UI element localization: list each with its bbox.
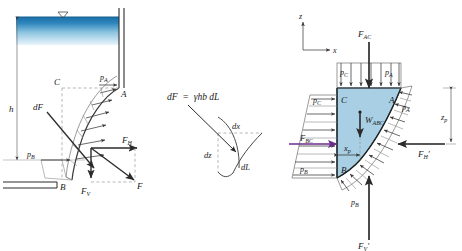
- left-pressure-block: [292, 95, 337, 178]
- fh-prime-label: FH′: [417, 149, 431, 160]
- pressure-a-label: pA: [99, 73, 108, 83]
- figure-canvas: h: [0, 0, 462, 251]
- pressure-b-label: pB: [26, 150, 35, 160]
- element-arc-tail: [218, 172, 233, 177]
- dx-label: dx: [232, 121, 240, 131]
- f-resultant-label: F: [136, 181, 143, 191]
- point-c-label: C: [54, 77, 61, 87]
- df-equation: dF = γhb dL: [167, 92, 219, 102]
- df-label: dF: [33, 102, 44, 112]
- equation-pointer-arrow: [188, 105, 236, 152]
- fv-prime-label: FV′: [357, 241, 370, 251]
- pressure-c-left-label: pC: [312, 96, 322, 106]
- physics-diagram-svg: h: [0, 0, 462, 251]
- fh-label: FH: [121, 135, 133, 146]
- point-b-label: B: [60, 182, 66, 192]
- curved-gate-surface: [72, 88, 119, 180]
- right-point-a-label: A: [388, 95, 395, 105]
- right-envelope-cap-bottom: [337, 178, 342, 190]
- zp-label: zp: [440, 112, 447, 123]
- f-resultant-arrow: [91, 148, 134, 180]
- right-point-b-label: B: [341, 165, 347, 175]
- dl-label: dL: [241, 162, 250, 172]
- centroid-dot: [358, 110, 361, 113]
- df-arrow: [47, 112, 94, 168]
- axis-x-label: x: [332, 46, 337, 55]
- center-panel: dF = γhb dL dx dz dL: [167, 92, 262, 177]
- right-envelope-cap-top: [401, 86, 412, 88]
- pressure-b-left-label: pB: [299, 165, 308, 175]
- fbc-label: FBC: [299, 133, 314, 144]
- pressure-b-lower-label: pB: [350, 198, 359, 208]
- axis-z-label: z: [298, 12, 303, 21]
- dz-label: dz: [204, 150, 212, 160]
- right-point-c-label: C: [341, 95, 348, 105]
- fv-label: FV: [80, 186, 92, 197]
- point-a-label: A: [120, 89, 127, 99]
- water-body: [16, 17, 119, 45]
- pressure-a-top-label: pA: [384, 68, 393, 78]
- depth-label: h: [9, 104, 14, 114]
- pressure-prism-bottom: [41, 160, 72, 180]
- right-panel: z x pC pA FAC: [289, 12, 456, 251]
- pressure-a-right-label: pA: [401, 103, 410, 113]
- fac-label: FAC: [357, 29, 372, 40]
- left-panel: h: [3, 8, 143, 197]
- pressure-c-top-label: pC: [339, 68, 349, 78]
